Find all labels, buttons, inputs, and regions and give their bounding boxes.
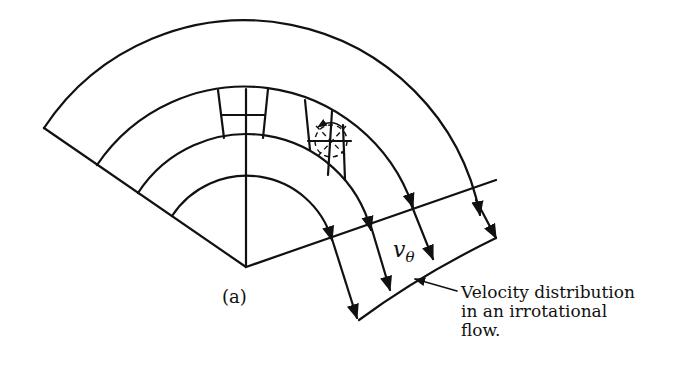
caption-leader-arrow [415,279,457,291]
left-radial-boundary [44,128,246,267]
streamline-2 [97,87,413,207]
fluid-element-rotating [305,100,351,180]
caption: Velocity distribution in an irrotational… [461,283,689,340]
fluid-element-top [218,89,268,138]
caption-line-1: Velocity distribution [461,283,689,302]
streamline-inner-ext [332,239,357,318]
caption-line-2: in an irrotational [461,302,689,321]
velocity-symbol: v [393,237,405,262]
streamline-inner [172,176,332,240]
caption-line-3: flow. [461,321,689,340]
velocity-label: vθ [393,237,414,266]
streamline-outer-ext [476,200,496,238]
panel-label: (a) [222,286,247,307]
velocity-subscript: θ [405,248,414,266]
streamline-outer [44,20,480,215]
streamline-3-ext [370,223,390,290]
